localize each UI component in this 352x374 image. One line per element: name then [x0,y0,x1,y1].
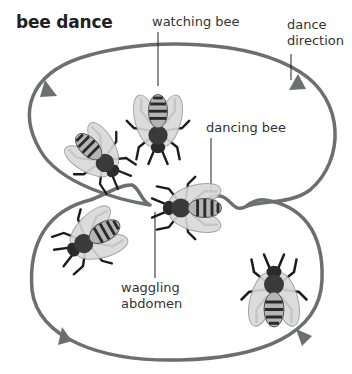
dancing-bee [152,177,223,239]
watching-bee-top [127,93,189,164]
bee-lower-left [43,195,136,285]
bee-lower-right [242,255,307,329]
arrow-icon-bottom-right [296,329,312,346]
bee-dance-diagram [0,0,352,374]
arrow-icon-bottom-left [58,327,72,345]
